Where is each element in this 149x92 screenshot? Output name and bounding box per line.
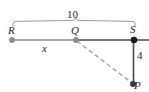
label-point-r: R [8,25,15,36]
label-point-q: Q [71,25,79,36]
label-point-p: P [134,80,141,91]
label-measure-top: 10 [67,9,78,20]
point-marker-s [131,37,138,44]
point-marker-q [73,37,79,43]
label-segment-x: x [42,43,47,54]
segment-q-to-p-dashed [77,41,132,83]
label-point-s: S [130,24,136,35]
geometry-diagram: 10 R Q S x 4 P [0,0,149,92]
label-measure-side: 4 [137,50,143,61]
point-marker-r [9,37,15,43]
